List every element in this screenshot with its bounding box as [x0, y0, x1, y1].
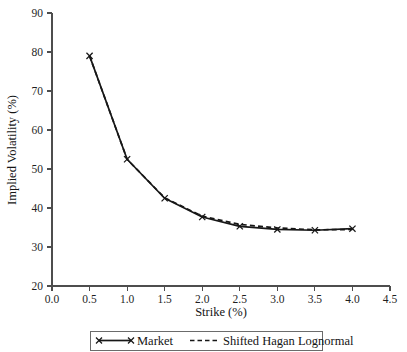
y-axis-ticks: [47, 13, 52, 286]
x-axis-ticks: [52, 286, 390, 291]
series-line-market: [90, 56, 353, 230]
y-tick-label: 20: [32, 280, 44, 292]
x-tick-label: 4.0: [345, 293, 360, 305]
legend: Market Shifted Hagan Lognormal: [90, 331, 354, 350]
x-axis-title: Strike (%): [195, 305, 247, 319]
y-axis-title: Implied Volatility (%): [5, 95, 19, 205]
x-tick-label: 1.0: [120, 293, 135, 305]
x-tick-label: 3.0: [270, 293, 285, 305]
x-tick-label: 4.5: [383, 293, 398, 305]
legend-label-shifted-hagan-lognormal: Shifted Hagan Lognormal: [223, 334, 354, 348]
y-axis-group: 2030405060708090: [32, 7, 53, 292]
legend-label-market: Market: [137, 334, 174, 348]
y-tick-label: 90: [32, 7, 44, 19]
y-tick-label: 50: [32, 163, 44, 175]
y-tick-label: 30: [32, 241, 44, 253]
y-tick-label: 60: [32, 124, 44, 136]
x-axis-group: 0.00.51.01.52.02.53.03.54.04.5: [45, 286, 398, 305]
x-tick-label: 0.5: [82, 293, 97, 305]
series-markers-market: [86, 53, 355, 234]
x-tick-label: 2.0: [195, 293, 210, 305]
x-tick-label: 2.5: [233, 293, 248, 305]
y-tick-label: 40: [32, 202, 44, 214]
implied-volatility-smile-chart: 2030405060708090 0.00.51.01.52.02.53.03.…: [0, 0, 407, 352]
x-axis-tick-labels: 0.00.51.01.52.02.53.03.54.04.5: [45, 293, 398, 305]
y-tick-label: 80: [32, 46, 44, 58]
x-tick-label: 0.0: [45, 293, 60, 305]
x-tick-label: 3.5: [308, 293, 323, 305]
series-line-shifted-hagan-lognormal: [90, 56, 353, 230]
x-tick-label: 1.5: [157, 293, 172, 305]
chart-figure: 2030405060708090 0.00.51.01.52.02.53.03.…: [0, 0, 407, 352]
y-axis-tick-labels: 2030405060708090: [32, 7, 44, 292]
y-tick-label: 70: [32, 85, 44, 97]
